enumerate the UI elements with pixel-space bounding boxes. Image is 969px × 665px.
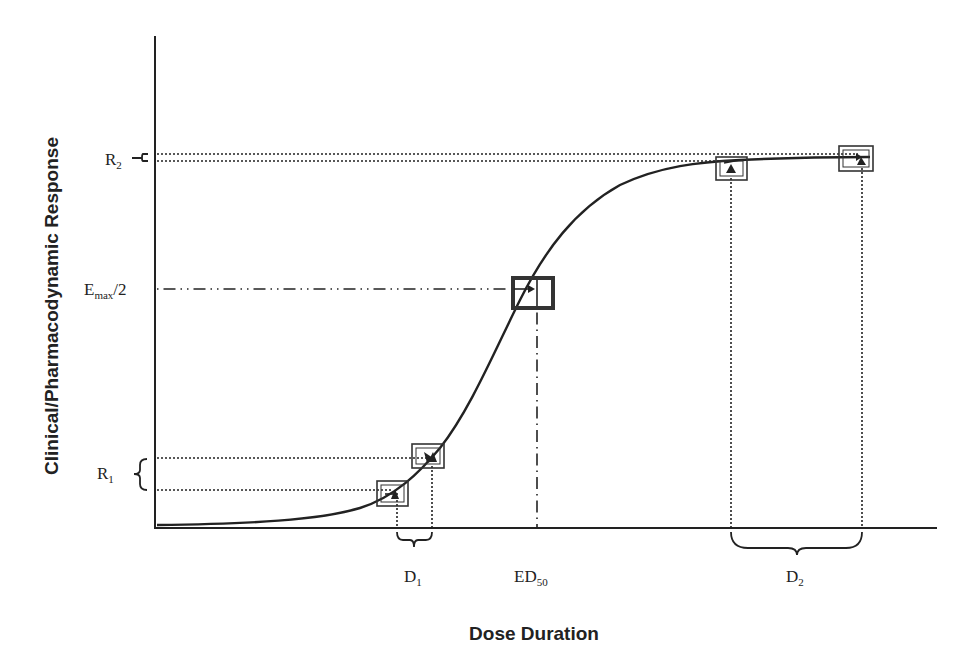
dose-response-diagram: R2 Emax/2 R1 D1 ED50 D2 Clinical/Pharmac… xyxy=(0,0,969,665)
horizontal-reference-lines xyxy=(157,154,858,490)
x-axis-title: Dose Duration xyxy=(469,623,599,644)
x-braces xyxy=(397,532,862,555)
d1-brace xyxy=(397,532,432,547)
axes xyxy=(154,36,937,529)
y-braces xyxy=(132,154,148,490)
marker-r2-upper xyxy=(839,146,873,171)
r2-brace xyxy=(132,154,148,161)
d2-brace xyxy=(731,532,862,555)
markers xyxy=(377,146,873,506)
vertical-reference-lines xyxy=(397,168,862,528)
marker-r1-upper xyxy=(412,444,444,468)
r2-label: R2 xyxy=(105,150,122,171)
d1-label: D1 xyxy=(404,567,422,588)
emax-half-label: Emax/2 xyxy=(84,280,127,301)
r1-label: R1 xyxy=(97,464,114,485)
marker-r1-lower xyxy=(377,481,408,506)
ed50-label: ED50 xyxy=(514,567,548,588)
d2-label: D2 xyxy=(786,567,804,588)
y-axis-title: Clinical/Pharmacodynamic Response xyxy=(41,137,62,475)
sigmoid-curve xyxy=(157,157,870,525)
r1-brace xyxy=(134,459,147,490)
